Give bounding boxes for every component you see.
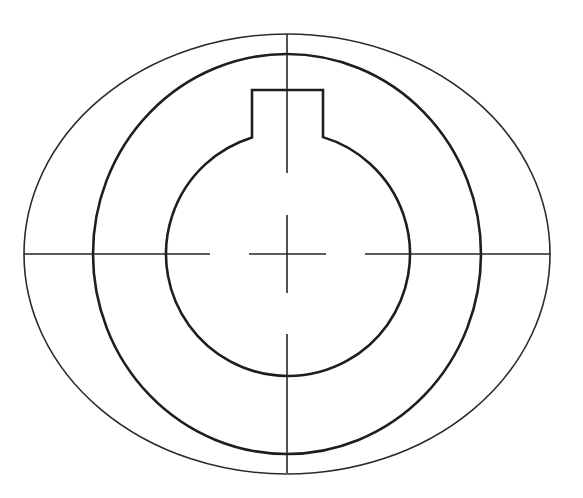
- technical-drawing-canvas: [0, 0, 583, 498]
- drawing-background: [0, 0, 583, 498]
